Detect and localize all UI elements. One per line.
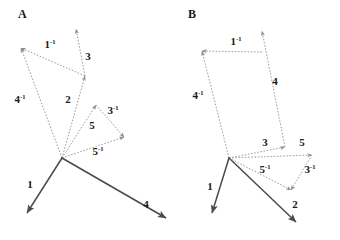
- vector-b-5: [229, 155, 312, 158]
- vector-a-1-inv: [21, 48, 85, 76]
- vector-a-4-inv: [21, 48, 62, 158]
- vector-diagram-svg: A14231-14-153-15-1B12341-14-153-15-1: [0, 0, 340, 240]
- origin-point-a: [61, 157, 63, 159]
- vector-label-b-2: 2: [292, 198, 298, 210]
- vector-label-a-3: 3: [85, 50, 91, 62]
- vector-b-4: [262, 31, 285, 147]
- panel-a: A14231-14-153-15-1: [15, 7, 166, 218]
- vector-label-base: 4: [143, 198, 149, 210]
- vector-label-b-3-inv: 3-1: [305, 163, 316, 175]
- vector-label-base: 2: [65, 93, 71, 105]
- vector-a-2: [62, 76, 85, 158]
- vector-label-a-4-inv: 4-1: [15, 93, 26, 105]
- vector-label-a-4: 4: [143, 198, 149, 210]
- vector-label-base: 5: [89, 119, 95, 131]
- vector-label-superscript: -1: [98, 145, 103, 152]
- vector-b-1: [212, 158, 229, 213]
- vector-label-superscript: -1: [113, 104, 118, 111]
- vector-label-base: 1: [207, 180, 213, 192]
- vector-b-1-inv: [202, 51, 262, 52]
- vector-label-superscript: -1: [50, 38, 55, 45]
- vector-label-b-3: 3: [262, 136, 268, 148]
- vector-label-b-1-inv: 1-1: [231, 35, 242, 47]
- panel-letter-a: A: [18, 7, 27, 21]
- vector-label-base: 3: [85, 50, 91, 62]
- vector-label-superscript: -1: [198, 89, 203, 96]
- vector-b-4-inv: [202, 51, 229, 158]
- panel-letter-b: B: [188, 7, 196, 21]
- vector-label-superscript: -1: [20, 93, 25, 100]
- vector-label-a-1: 1: [27, 178, 33, 190]
- vector-label-b-4-inv: 4-1: [193, 89, 204, 101]
- vector-label-superscript: -1: [236, 35, 241, 42]
- vector-label-a-2: 2: [65, 93, 71, 105]
- vector-label-b-1: 1: [207, 180, 213, 192]
- vector-label-base: 4: [272, 75, 278, 87]
- vector-label-a-3-inv: 3-1: [108, 104, 119, 116]
- panel-b: B12341-14-153-15-1: [188, 7, 315, 222]
- vector-label-base: 5: [299, 136, 305, 148]
- vector-b-3: [229, 147, 285, 158]
- vector-label-a-1-inv: 1-1: [45, 38, 56, 50]
- vector-label-base: 2: [292, 198, 298, 210]
- vector-label-b-5: 5: [299, 136, 305, 148]
- vector-label-a-5-inv: 5-1: [93, 145, 104, 157]
- vector-label-b-4: 4: [272, 75, 278, 87]
- vector-label-base: 3: [262, 136, 268, 148]
- vector-label-superscript: -1: [310, 163, 315, 170]
- vector-label-b-5-inv: 5-1: [260, 163, 271, 175]
- origin-point-b: [228, 157, 230, 159]
- vector-a-5: [62, 105, 96, 158]
- vector-label-superscript: -1: [265, 163, 270, 170]
- vector-a-3: [76, 29, 85, 76]
- figure-root: A14231-14-153-15-1B12341-14-153-15-1: [0, 0, 340, 240]
- vector-a-4: [62, 158, 166, 218]
- panels-layer: A14231-14-153-15-1B12341-14-153-15-1: [15, 7, 316, 222]
- vector-label-a-5: 5: [89, 119, 95, 131]
- vector-label-base: 1: [27, 178, 33, 190]
